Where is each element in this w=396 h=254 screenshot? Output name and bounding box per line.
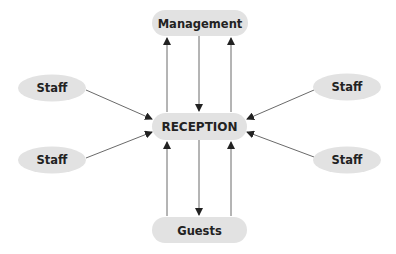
- node-staff-bottom-left: Staff: [18, 147, 86, 174]
- node-staff-top-right-label: Staff: [332, 80, 364, 94]
- node-reception-label: RECEPTION: [161, 120, 237, 134]
- node-staff-top-right: Staff: [313, 74, 381, 101]
- edge-staff-bottom-left-to-reception: [86, 132, 152, 158]
- node-guests: Guests: [152, 217, 247, 243]
- node-staff-top-left-label: Staff: [37, 81, 69, 95]
- node-reception: RECEPTION: [152, 113, 247, 140]
- edges-management-reception: [167, 36, 231, 112]
- node-staff-bottom-left-label: Staff: [37, 153, 69, 167]
- edges-reception-guests: [167, 140, 231, 216]
- node-staff-bottom-right-label: Staff: [332, 153, 364, 167]
- edge-staff-top-left-to-reception: [86, 90, 152, 119]
- node-management-label: Management: [158, 17, 243, 31]
- edge-staff-bottom-right-to-reception: [247, 132, 314, 157]
- edge-staff-top-right-to-reception: [247, 90, 314, 119]
- node-staff-top-left: Staff: [18, 75, 86, 102]
- node-staff-bottom-right: Staff: [313, 147, 381, 174]
- node-management: Management: [152, 10, 248, 36]
- node-guests-label: Guests: [177, 224, 222, 238]
- communication-diagram: Management RECEPTION Guests Staff Staff …: [0, 0, 396, 254]
